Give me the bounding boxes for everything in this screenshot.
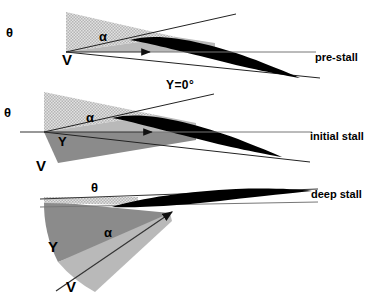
alpha-label: α (99, 29, 107, 44)
panel-pre-stall (66, 12, 320, 78)
caption-initial-stall: initial stall (310, 130, 364, 142)
caption-deep-stall: deep stall (311, 188, 362, 200)
theta-label: θ (6, 25, 13, 40)
gamma-label: Υ (58, 134, 67, 149)
panel-initial-stall (20, 92, 312, 163)
gamma-label: Υ (48, 238, 58, 255)
theta-label: θ (4, 105, 11, 120)
velocity-label: V (62, 51, 72, 68)
panel-deep-stall (40, 189, 318, 292)
alpha-label: α (104, 225, 112, 240)
theta-label: θ (91, 180, 98, 195)
airfoil (112, 189, 312, 208)
caption-pre-stall: pre-stall (315, 51, 358, 63)
velocity-label: V (36, 157, 46, 174)
global-gamma-label: Υ=0° (166, 78, 194, 92)
velocity-label: V (66, 278, 76, 295)
alpha-label: α (86, 110, 94, 125)
stall-regimes-diagram (0, 0, 389, 302)
